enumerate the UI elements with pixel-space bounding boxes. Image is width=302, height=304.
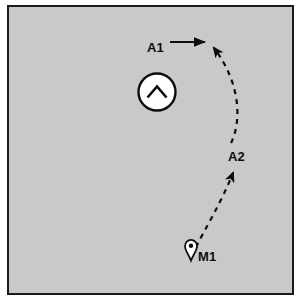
label-m1: M1 [198,250,216,263]
map-panel: A1 A2 M1 [7,5,294,295]
dashed-curved-arrow-icon [214,48,237,143]
label-a2: A2 [228,150,245,163]
visualization-root: A1 A2 M1 [0,0,302,304]
label-a1: A1 [147,41,164,54]
map-pin-icon [185,240,197,261]
chevron-up-circle-icon [139,74,176,111]
dashed-straight-arrow-icon [196,173,233,247]
